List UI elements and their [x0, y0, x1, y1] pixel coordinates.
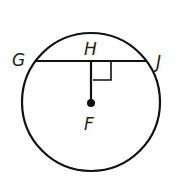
circle-diagram: G H J F	[0, 0, 182, 184]
label-h: H	[84, 39, 97, 59]
label-f: F	[84, 114, 94, 134]
label-j: J	[153, 52, 161, 72]
right-angle-marker	[93, 61, 111, 80]
center-point-f	[87, 99, 95, 107]
label-g: G	[12, 50, 25, 70]
